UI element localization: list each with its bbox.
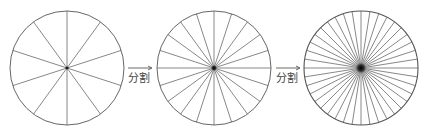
divided-circle-40 [304, 11, 418, 125]
circle-division-diagram: 分割 分割 [0, 0, 429, 135]
diagram-canvas [0, 0, 429, 135]
arrow-1 [128, 66, 152, 70]
arrow-label-2: 分割 [276, 73, 298, 85]
center-point [211, 65, 217, 71]
arrow-label-1: 分割 [128, 73, 150, 85]
divided-circle-20 [157, 11, 271, 125]
arrow-2 [276, 66, 300, 70]
circles [10, 11, 418, 125]
divided-circle-10 [10, 11, 124, 125]
center-point [356, 63, 366, 73]
center-point [65, 66, 69, 70]
